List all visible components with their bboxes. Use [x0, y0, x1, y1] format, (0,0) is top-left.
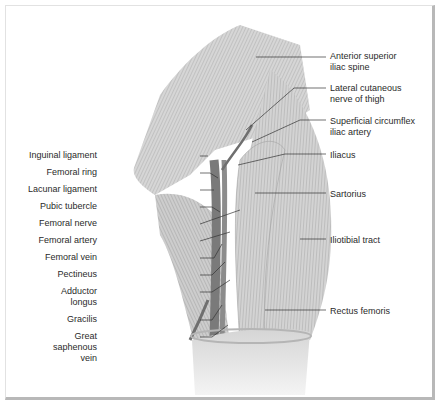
- label-sartorius: Sartorius: [330, 189, 366, 200]
- label-pectineus: Pectineus: [0, 269, 97, 280]
- label-great-saphenous-vein: Great saphenous vein: [0, 331, 97, 364]
- label-femoral-artery: Femoral artery: [0, 235, 97, 246]
- label-gracilis: Gracilis: [0, 314, 97, 325]
- label-femoral-vein: Femoral vein: [0, 252, 97, 263]
- label-rectus-femoris: Rectus femoris: [330, 306, 390, 317]
- skin-cylinder: [192, 329, 310, 395]
- label-femoral-ring: Femoral ring: [0, 167, 97, 178]
- label-femoral-nerve: Femoral nerve: [0, 218, 97, 229]
- label-lateral-cutaneous-nerve: Lateral cutaneous nerve of thigh: [330, 83, 402, 105]
- femoral-artery-shape: [222, 160, 225, 340]
- label-iliotibial-tract: Iliotibial tract: [330, 235, 380, 246]
- label-iliacus: Iliacus: [330, 150, 356, 161]
- label-adductor-longus: Adductor longus: [0, 286, 97, 308]
- femoral-vein-shape: [214, 160, 216, 340]
- label-superficial-circumflex-iliac-artery: Superficial circumflex iliac artery: [330, 116, 415, 138]
- label-pubic-tubercle: Pubic tubercle: [0, 201, 97, 212]
- label-inguinal-ligament: Inguinal ligament: [0, 150, 97, 161]
- label-anterior-superior-iliac-spine: Anterior superior iliac spine: [330, 51, 397, 73]
- label-lacunar-ligament: Lacunar ligament: [0, 184, 97, 195]
